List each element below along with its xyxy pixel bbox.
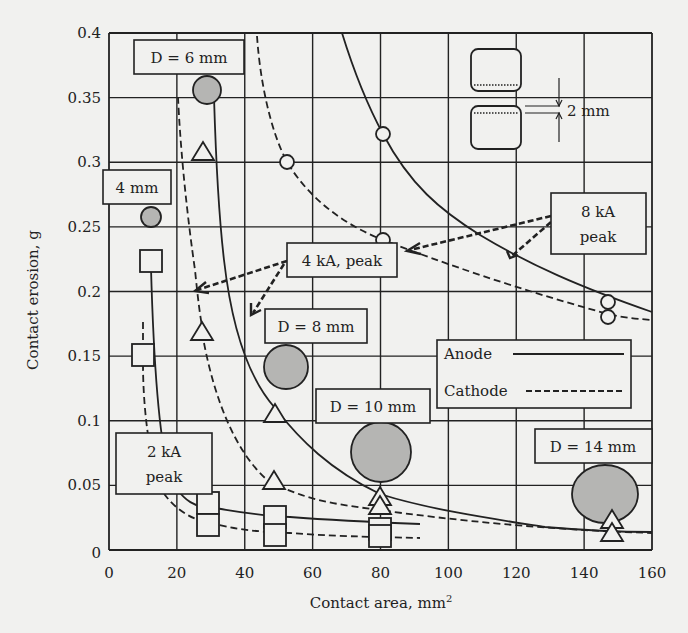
arrow-8ka-to-cathode	[410, 216, 551, 250]
marker-14mm	[572, 465, 638, 523]
marker-4ka-cathode	[191, 322, 213, 340]
marker-6mm	[193, 76, 221, 104]
y-axis-label: Contact erosion, g	[24, 230, 42, 370]
x-tick-label: 0	[104, 564, 114, 582]
x-tick-label: 100	[434, 564, 463, 582]
marker-4mm	[141, 207, 161, 227]
label-d8: D = 8 mm	[278, 318, 355, 336]
x-tick-label: 40	[235, 564, 254, 582]
marker-2ka-cathode	[197, 514, 219, 536]
label-2ka-line1: 2 kA	[147, 443, 181, 461]
marker-4ka-anode	[192, 142, 214, 160]
erosion-chart: 02040608010012014016000.050.10.150.20.25…	[0, 0, 688, 633]
marker-8ka-anode	[376, 127, 390, 141]
x-tick-label: 140	[570, 564, 599, 582]
marker-2ka-anode	[140, 250, 162, 272]
y-tick-label: 0.4	[77, 24, 101, 42]
marker-8mm	[264, 345, 308, 389]
legend-cathode-label: Cathode	[444, 382, 508, 400]
x-axis-label: Contact area, mm2	[310, 593, 453, 612]
x-tick-label: 80	[371, 564, 390, 582]
marker-8ka-anode	[601, 295, 615, 309]
marker-2ka-cathode	[264, 524, 286, 546]
arrow-4ka-to-cathode	[197, 261, 287, 290]
y-tick-label: 0	[91, 544, 101, 562]
y-tick-label: 0.15	[68, 347, 101, 365]
electrode-gap-inset: 2 mm	[471, 49, 610, 149]
y-tick-label: 0.3	[77, 153, 101, 171]
marker-4ka-anode	[264, 404, 286, 422]
marker-2ka-cathode	[132, 344, 154, 366]
x-tick-label: 60	[303, 564, 322, 582]
label-8ka-line2: peak	[580, 228, 617, 246]
x-tick-label: 20	[167, 564, 186, 582]
label-4ka: 4 kA, peak	[302, 252, 383, 270]
y-tick-label: 0.35	[68, 89, 101, 107]
label-2ka-line2: peak	[146, 468, 183, 486]
marker-10mm	[351, 422, 411, 482]
y-tick-label: 0.2	[77, 283, 101, 301]
marker-2ka-anode	[197, 492, 219, 514]
gap-label: 2 mm	[567, 102, 610, 120]
marker-8ka-cathode	[601, 310, 615, 324]
legend-anode-label: Anode	[443, 345, 492, 363]
marker-2ka-cathode	[369, 525, 391, 547]
label-d4: 4 mm	[116, 179, 159, 197]
y-tick-label: 0.05	[68, 476, 101, 494]
label-d10: D = 10 mm	[330, 398, 416, 416]
label-d6: D = 6 mm	[151, 49, 228, 67]
label-8ka-line1: 8 kA	[581, 203, 615, 221]
label-d14: D = 14 mm	[550, 438, 636, 456]
x-tick-label: 120	[502, 564, 531, 582]
x-tick-label: 160	[638, 564, 667, 582]
marker-4ka-cathode	[263, 471, 285, 489]
marker-8ka-cathode	[280, 155, 294, 169]
y-tick-label: 0.25	[68, 218, 101, 236]
y-tick-label: 0.1	[77, 412, 101, 430]
